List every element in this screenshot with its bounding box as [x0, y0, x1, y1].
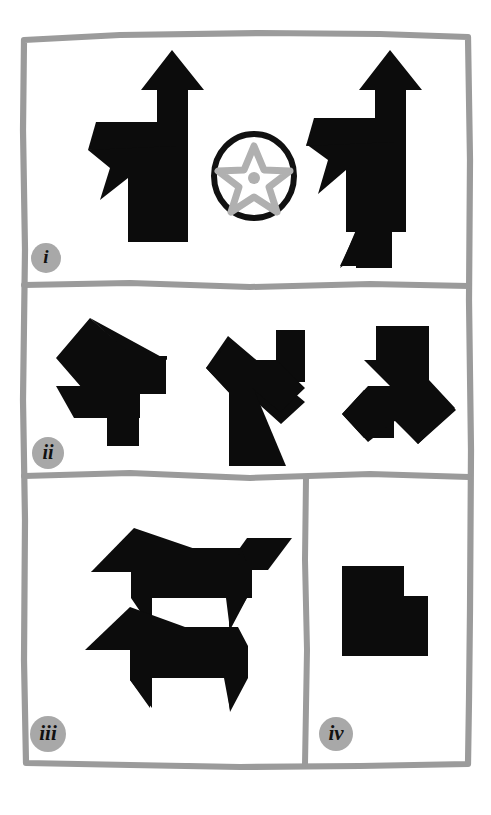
badge-i-label: i	[43, 246, 49, 267]
divider-iii-iv-vertical	[305, 478, 307, 764]
figure-canvas: i ii iii iv	[0, 0, 491, 815]
badge-iii-label: iii	[39, 721, 57, 745]
figure-root: i ii iii iv	[0, 0, 491, 815]
badge-iii: iii	[30, 716, 66, 752]
badge-iv: iv	[319, 717, 353, 751]
badge-ii: ii	[32, 437, 64, 469]
star-center-dot-icon	[248, 172, 260, 184]
badge-ii-label: ii	[42, 441, 54, 463]
badge-iv-label: iv	[328, 721, 344, 745]
badge-i: i	[31, 243, 61, 273]
star-in-circle-symbol	[214, 134, 294, 218]
